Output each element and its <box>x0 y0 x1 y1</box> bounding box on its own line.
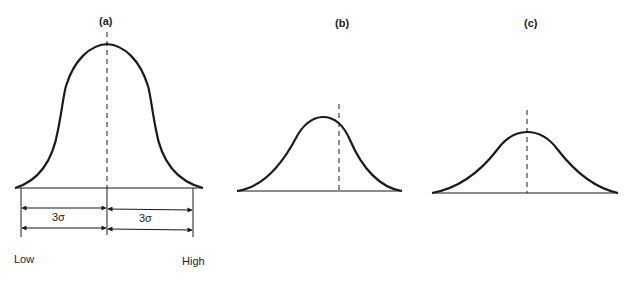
panel-a-diagram <box>15 32 203 237</box>
panel-c-diagram <box>432 110 618 193</box>
panel-b-curve <box>237 117 402 191</box>
distribution-figure <box>0 0 634 282</box>
panel-a-right-arrow-top <box>108 209 192 210</box>
panel-b-label: (b) <box>335 17 349 29</box>
panel-a-left-sigma-label: 3σ <box>52 211 65 223</box>
panel-a-right-arrow-bottom <box>108 229 192 230</box>
panel-a-curve <box>15 44 203 188</box>
panel-b-diagram <box>237 104 402 191</box>
panel-c-label: (c) <box>524 17 537 29</box>
panel-c-curve <box>432 132 618 193</box>
low-label: Low <box>14 253 34 265</box>
high-label: High <box>182 255 205 267</box>
panel-a-label: (a) <box>99 15 112 27</box>
panel-a-right-sigma-label: 3σ <box>139 212 152 224</box>
